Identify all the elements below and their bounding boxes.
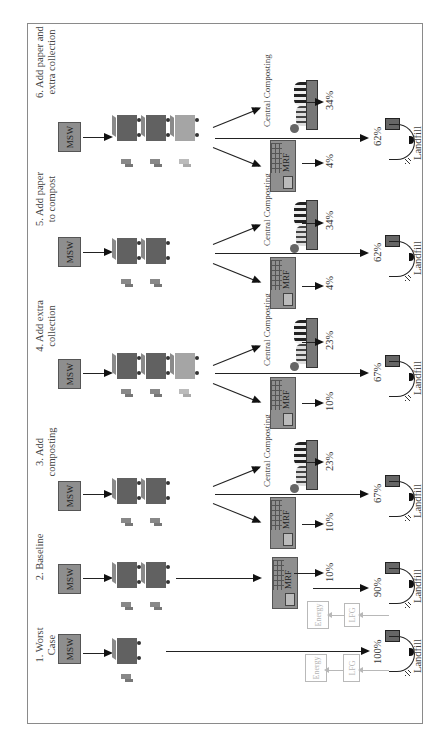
arrow-landfill-to-lfg-2 bbox=[361, 615, 389, 616]
mrf-pct-5: 4% bbox=[324, 276, 335, 290]
landfill-pct-3: 67% bbox=[372, 484, 383, 503]
small-bin-icon bbox=[179, 385, 193, 405]
arrow-to-landfill-4 bbox=[215, 373, 367, 374]
bin-icon bbox=[146, 353, 168, 379]
composting-icon bbox=[290, 440, 318, 490]
mrf-building-icon: MRF bbox=[268, 140, 298, 192]
arrow-mrf-out-5 bbox=[302, 286, 322, 287]
arrow-msw-to-bins-1 bbox=[83, 653, 111, 654]
arrow-to-landfill-3 bbox=[215, 494, 367, 495]
landfill-icon bbox=[385, 630, 415, 676]
landfill-icon bbox=[385, 475, 415, 521]
bin-icon bbox=[175, 353, 197, 379]
small-bin-icon bbox=[150, 598, 164, 618]
landfill-icon bbox=[385, 118, 415, 164]
bin-icon bbox=[117, 115, 139, 141]
arrow-compost-out-5 bbox=[302, 223, 322, 224]
landfill-icon bbox=[385, 562, 415, 608]
bin-icon bbox=[117, 353, 139, 379]
scenario-5-title: 5. Add paperto compost bbox=[34, 169, 58, 229]
arrow-compost-out-6 bbox=[302, 102, 322, 103]
bin-icon bbox=[146, 238, 168, 264]
msw-box-2: MSW bbox=[58, 564, 81, 594]
mrf-pct-2: 10% bbox=[324, 563, 335, 582]
arrow-lfg-to-energy-2 bbox=[330, 615, 344, 616]
msw-box-6: MSW bbox=[58, 122, 81, 152]
composting-icon bbox=[290, 200, 318, 250]
compost-label-4: Central Composting bbox=[262, 316, 272, 366]
msw-box-5: MSW bbox=[58, 237, 81, 267]
arrow-to-landfill-5 bbox=[215, 253, 367, 254]
landfill-pct-2: 90% bbox=[372, 578, 383, 597]
arrow-to-mrf-2 bbox=[176, 578, 260, 579]
compost-pct-3: 23% bbox=[324, 452, 335, 471]
small-bin-icon bbox=[179, 155, 193, 175]
arrow-to-landfill-6 bbox=[215, 138, 367, 139]
arrow-msw-to-bins-5 bbox=[83, 252, 111, 253]
landfill-label-4: Landfill bbox=[412, 361, 424, 395]
landfill-label-6: Landfill bbox=[412, 126, 424, 160]
bin-icon bbox=[146, 115, 168, 141]
scenario-2-title: 2. Baseline bbox=[34, 532, 46, 582]
small-bin-icon bbox=[121, 155, 135, 175]
landfill-pct-4: 67% bbox=[372, 363, 383, 382]
arrow-mrf-out-4 bbox=[302, 403, 322, 404]
compost-label-6: Central Composting bbox=[262, 77, 272, 127]
landfill-pct-5: 62% bbox=[372, 243, 383, 262]
landfill-label-2: Landfill bbox=[412, 569, 424, 603]
compost-label-5: Central Composting bbox=[262, 196, 272, 246]
arrow-msw-to-bins-6 bbox=[83, 137, 111, 138]
mrf-pct-3: 10% bbox=[324, 513, 335, 532]
scenario-4-title: 4. Add extracollection bbox=[34, 296, 58, 356]
scenario-1-title: 1. WorstCase bbox=[34, 624, 58, 666]
landfill-icon bbox=[385, 235, 415, 281]
compost-label-3: Central Composting bbox=[262, 437, 272, 487]
compost-pct-4: 23% bbox=[324, 331, 335, 350]
mrf-pct-6: 4% bbox=[324, 154, 335, 168]
small-bin-icon bbox=[121, 514, 135, 534]
bin-icon bbox=[146, 478, 168, 504]
arrow-compost-out-4 bbox=[302, 342, 322, 343]
small-bin-icon bbox=[150, 385, 164, 405]
small-bin-icon bbox=[121, 670, 135, 690]
scenario-3-title: 3. Addcomposting bbox=[34, 424, 58, 480]
mrf-building-icon: MRF bbox=[270, 557, 300, 609]
bin-icon bbox=[117, 638, 139, 664]
arrow-msw-to-bins-2 bbox=[83, 578, 111, 579]
landfill-label-5: Landfill bbox=[412, 241, 424, 275]
arrow-compost-out-3 bbox=[302, 462, 322, 463]
landfill-label-1: Landfill bbox=[412, 639, 424, 673]
compost-pct-5: 34% bbox=[324, 211, 335, 230]
arrow-msw-to-bins-4 bbox=[83, 373, 111, 374]
arrow-mrf-out-6 bbox=[302, 163, 322, 164]
small-bin-icon bbox=[150, 155, 164, 175]
small-bin-icon bbox=[150, 514, 164, 534]
small-bin-icon bbox=[121, 275, 135, 295]
landfill-label-3: Landfill bbox=[412, 484, 424, 518]
mrf-building-icon: MRF bbox=[268, 377, 298, 429]
bin-icon bbox=[146, 562, 168, 588]
arrow-mrf-out-2 bbox=[294, 573, 322, 574]
arrow-msw-to-bins-3 bbox=[83, 494, 111, 495]
bin-icon bbox=[117, 562, 139, 588]
msw-box-3: MSW bbox=[58, 481, 81, 511]
arrow-landfill-to-lfg-1 bbox=[361, 670, 389, 671]
scenario-6-title: 6. Add paper andextra collection bbox=[34, 24, 58, 100]
bin-icon bbox=[175, 115, 197, 141]
mrf-pct-4: 10% bbox=[324, 392, 335, 411]
energy-box-2: Energy bbox=[307, 601, 329, 629]
small-bin-icon bbox=[121, 598, 135, 618]
msw-box-4: MSW bbox=[58, 359, 81, 389]
small-bin-icon bbox=[121, 385, 135, 405]
composting-icon bbox=[290, 80, 318, 130]
msw-box-1: MSW bbox=[58, 634, 81, 664]
mrf-building-icon: MRF bbox=[268, 497, 298, 549]
small-bin-icon bbox=[150, 275, 164, 295]
bin-icon bbox=[117, 478, 139, 504]
arrow-mrf-out-3 bbox=[302, 524, 322, 525]
compost-pct-6: 34% bbox=[324, 91, 335, 110]
landfill-pct-6: 62% bbox=[372, 127, 383, 146]
bin-icon bbox=[117, 238, 139, 264]
mrf-building-icon: MRF bbox=[268, 257, 298, 309]
arrow-lfg-to-energy-1 bbox=[327, 670, 343, 671]
